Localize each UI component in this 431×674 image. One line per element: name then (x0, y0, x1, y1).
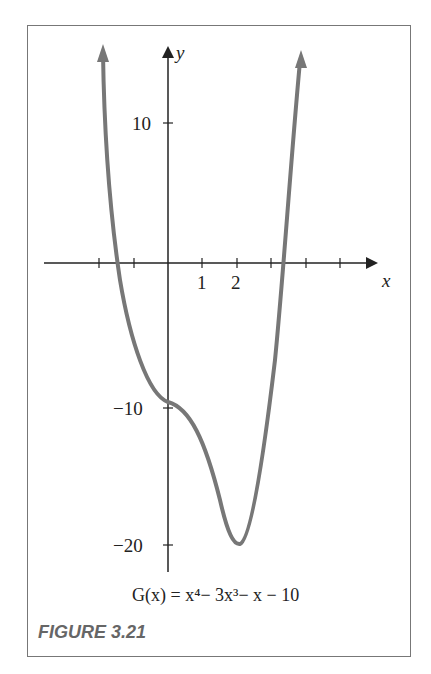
x-tick-label-2: 2 (231, 272, 241, 294)
curve-arrow-left (97, 44, 109, 62)
y-tick-label-neg20: −20 (113, 535, 143, 557)
x-tick-label-1: 1 (197, 272, 207, 294)
y-tick-label-10: 10 (132, 113, 151, 135)
figure-caption: FIGURE 3.21 (38, 622, 146, 643)
y-tick-label-neg10: −10 (113, 398, 143, 420)
chart-plot (0, 0, 431, 674)
x-axis-label: x (382, 270, 390, 292)
y-axis-label: y (176, 42, 184, 64)
function-formula: G(x) = x⁴− 3x³− x − 10 (132, 585, 299, 606)
curve-arrow-right (295, 50, 307, 68)
